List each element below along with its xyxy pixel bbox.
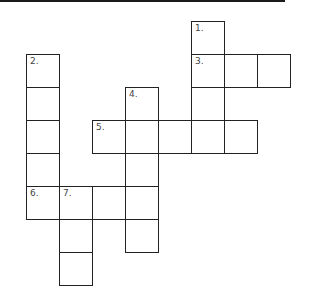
crossword-cell[interactable] — [158, 120, 192, 154]
clue-number: 6. — [30, 189, 39, 198]
crossword-cell[interactable] — [125, 120, 159, 154]
crossword-cell[interactable] — [26, 153, 60, 187]
crossword-cell[interactable] — [125, 153, 159, 187]
clue-number: 5. — [96, 123, 105, 132]
crossword-cell[interactable] — [59, 219, 93, 253]
crossword-grid: 1.2.3.4.5.6.7. — [0, 0, 310, 307]
crossword-cell[interactable]: 6. — [26, 186, 60, 220]
clue-number: 2. — [30, 57, 39, 66]
crossword-cell[interactable] — [224, 120, 258, 154]
crossword-cell[interactable]: 2. — [26, 54, 60, 88]
clue-number: 1. — [195, 24, 204, 33]
clue-number: 3. — [195, 57, 204, 66]
crossword-cell[interactable] — [26, 87, 60, 121]
crossword-cell[interactable] — [191, 87, 225, 121]
crossword-cell[interactable] — [59, 252, 93, 286]
crossword-cell[interactable]: 1. — [191, 21, 225, 55]
crossword-cell[interactable] — [257, 54, 291, 88]
crossword-cell[interactable] — [191, 120, 225, 154]
crossword-cell[interactable]: 7. — [59, 186, 93, 220]
crossword-cell[interactable]: 5. — [92, 120, 126, 154]
crossword-cell[interactable]: 3. — [191, 54, 225, 88]
clue-number: 7. — [63, 189, 72, 198]
crossword-cell[interactable] — [125, 186, 159, 220]
crossword-cell[interactable] — [224, 54, 258, 88]
crossword-cell[interactable] — [92, 186, 126, 220]
clue-number: 4. — [129, 90, 138, 99]
crossword-cell[interactable] — [26, 120, 60, 154]
crossword-cell[interactable]: 4. — [125, 87, 159, 121]
crossword-cell[interactable] — [125, 219, 159, 253]
